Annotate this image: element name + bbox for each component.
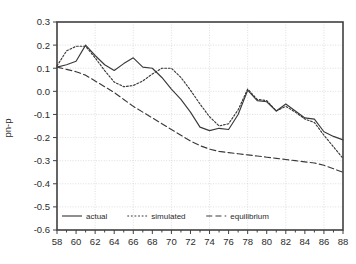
x-tick-label: 80 <box>261 236 272 247</box>
y-tick-label: -0.2 <box>34 132 50 143</box>
x-tick-label: 84 <box>300 236 311 247</box>
y-tick-label: -0.6 <box>34 224 50 235</box>
x-tick-label: 70 <box>166 236 177 247</box>
chart-container: 58606264666870727476788082848688 0.30.20… <box>0 0 356 264</box>
y-tick-labels: 0.30.20.10.0-0.1-0.2-0.3-0.4-0.5-0.6 <box>34 16 50 235</box>
y-tick-label: -0.4 <box>34 178 50 189</box>
y-tick-label: 0.3 <box>37 16 50 27</box>
x-tick-label: 76 <box>223 236 234 247</box>
legend-label-actual: actual <box>86 212 108 221</box>
x-tick-label: 86 <box>319 236 330 247</box>
x-tick-label: 82 <box>281 236 292 247</box>
y-tick-label: 0.1 <box>37 63 50 74</box>
x-tick-label: 74 <box>204 236 215 247</box>
x-tick-label: 60 <box>71 236 82 247</box>
y-tick-label: 0.0 <box>37 86 50 97</box>
x-tick-label: 72 <box>185 236 196 247</box>
x-tick-label: 66 <box>128 236 139 247</box>
y-tick-label: -0.1 <box>34 109 50 120</box>
x-tick-labels: 58606264666870727476788082848688 <box>52 236 349 247</box>
chart-legend: actualsimulatedequilibrium <box>62 212 269 221</box>
x-tick-label: 68 <box>147 236 158 247</box>
y-tick-label: 0.2 <box>37 40 50 51</box>
plot-background <box>57 22 343 230</box>
x-tick-label: 64 <box>109 236 120 247</box>
x-tick-label: 88 <box>338 236 349 247</box>
x-tick-label: 62 <box>90 236 101 247</box>
y-tick-label: -0.5 <box>34 201 50 212</box>
y-tick-label: -0.3 <box>34 155 50 166</box>
legend-label-equilibrium: equilibrium <box>230 212 269 221</box>
x-tick-label: 58 <box>52 236 63 247</box>
x-tick-label: 78 <box>242 236 253 247</box>
legend-label-simulated: simulated <box>151 212 185 221</box>
line-chart: 58606264666870727476788082848688 0.30.20… <box>0 0 356 264</box>
y-axis-label: pn-p <box>2 118 13 137</box>
